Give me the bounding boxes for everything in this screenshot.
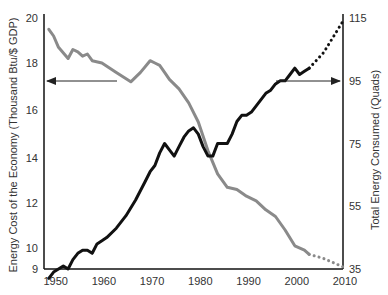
right-tick-label: 95 xyxy=(349,75,361,87)
right-tick-label: 75 xyxy=(349,138,361,150)
right-tick-label: 55 xyxy=(349,200,361,212)
x-tick-label: 1960 xyxy=(92,275,116,287)
left-axis-label: Energy Cost of the Economy (Thousand Btu… xyxy=(7,18,19,273)
x-tick-label: 1970 xyxy=(140,275,164,287)
left-tick-label: 12 xyxy=(26,197,38,209)
left-tick-label: 16 xyxy=(26,104,38,116)
x-tick-label: 1990 xyxy=(236,275,260,287)
x-tick-label: 1980 xyxy=(188,275,212,287)
right-tick-label: 35 xyxy=(349,263,361,275)
right-tick-labels: 35557595115 xyxy=(349,12,367,275)
chart: 9101214161820 35557595115 19501960197019… xyxy=(0,0,388,295)
right-tick-label: 115 xyxy=(349,12,367,24)
x-tick-label: 2010 xyxy=(333,275,357,287)
left-tick-label: 10 xyxy=(26,242,38,254)
left-tick-label: 20 xyxy=(26,12,38,24)
left-tick-label: 18 xyxy=(26,57,38,69)
left-tick-labels: 9101214161820 xyxy=(26,12,38,275)
energy-consumed-projection-line xyxy=(309,21,343,68)
series-layer xyxy=(49,21,343,278)
x-tick-labels: 1950196019701980199020002010 xyxy=(43,275,357,287)
energy-cost-projection-line xyxy=(309,254,343,267)
x-tick-label: 1950 xyxy=(43,275,67,287)
right-axis-label: Total Energy Consumed (Quads) xyxy=(369,70,381,230)
energy-cost-line xyxy=(49,29,309,254)
energy-consumed-line xyxy=(49,68,309,278)
x-tick-label: 2000 xyxy=(285,275,309,287)
left-tick-label: 9 xyxy=(32,263,38,275)
left-tick-label: 14 xyxy=(26,152,38,164)
